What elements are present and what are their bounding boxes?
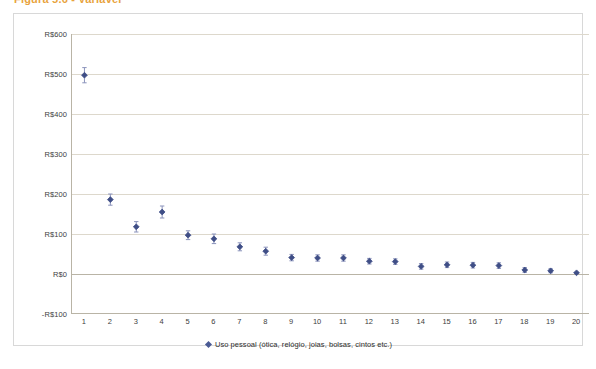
data-point-markers-group	[82, 72, 580, 275]
y-tick-label--100: -R$100	[42, 310, 67, 319]
y-tick-label-400: R$400	[44, 110, 67, 119]
x-tick-label-10: 10	[313, 317, 321, 326]
y-tick-label-600: R$600	[44, 30, 67, 39]
y-tick-label-500: R$500	[44, 70, 67, 79]
x-tick-label-4: 4	[160, 317, 164, 326]
data-point-marker[interactable]	[444, 262, 450, 268]
data-point-marker[interactable]	[82, 72, 88, 78]
x-tick-label-11: 11	[339, 317, 347, 326]
error-bars-group	[82, 68, 579, 274]
x-tick-label-1: 1	[82, 317, 86, 326]
x-tick-label-12: 12	[365, 317, 373, 326]
plot-area	[71, 34, 589, 314]
data-point-marker[interactable]	[185, 232, 191, 238]
x-tick-label-15: 15	[442, 317, 450, 326]
x-axis-tick-labels: 1234567891011121314151617181920	[71, 317, 589, 331]
y-tick-label-100: R$100	[44, 230, 67, 239]
data-point-marker[interactable]	[366, 258, 372, 264]
chart-legend: Uso pessoal (ótica, relógio, joias, bols…	[14, 340, 584, 349]
data-point-marker[interactable]	[159, 209, 165, 215]
gridlines-group	[71, 35, 589, 315]
x-tick-label-19: 19	[546, 317, 554, 326]
data-point-marker[interactable]	[341, 255, 347, 261]
data-point-marker[interactable]	[107, 197, 113, 203]
x-tick-label-18: 18	[520, 317, 528, 326]
data-point-marker[interactable]	[211, 236, 217, 242]
x-tick-label-9: 9	[289, 317, 293, 326]
diamond-marker-icon	[205, 341, 212, 348]
x-tick-label-17: 17	[494, 317, 502, 326]
data-point-marker[interactable]	[418, 264, 424, 270]
data-point-marker[interactable]	[289, 255, 295, 261]
x-tick-label-14: 14	[416, 317, 424, 326]
data-point-marker[interactable]	[315, 255, 321, 261]
legend-label: Uso pessoal (ótica, relógio, joias, bols…	[215, 340, 392, 349]
y-axis-tick-labels: R$600R$500R$400R$300R$200R$100R$0-R$100	[27, 34, 67, 314]
x-tick-label-3: 3	[134, 317, 138, 326]
chart-frame: R$600R$500R$400R$300R$200R$100R$0-R$100 …	[13, 13, 583, 346]
x-tick-label-6: 6	[211, 317, 215, 326]
figure-title: Figura 5.6 - Variável	[14, 0, 122, 5]
data-point-marker[interactable]	[133, 224, 139, 230]
scatter-plot-svg	[71, 34, 589, 314]
y-tick-label-300: R$300	[44, 150, 67, 159]
y-tick-label-0: R$0	[53, 270, 67, 279]
x-tick-label-8: 8	[263, 317, 267, 326]
y-tick-label-200: R$200	[44, 190, 67, 199]
x-tick-label-13: 13	[391, 317, 399, 326]
x-tick-label-2: 2	[108, 317, 112, 326]
x-tick-label-5: 5	[185, 317, 189, 326]
figure-title-strip: Figura 5.6 - Variável	[0, 0, 596, 9]
data-point-marker[interactable]	[237, 244, 243, 250]
axis-lines-group	[71, 34, 589, 314]
data-point-marker[interactable]	[263, 248, 269, 254]
data-point-marker[interactable]	[392, 259, 398, 265]
x-tick-label-20: 20	[572, 317, 580, 326]
data-point-marker[interactable]	[470, 262, 476, 268]
x-tick-label-7: 7	[237, 317, 241, 326]
data-point-marker[interactable]	[496, 263, 502, 269]
x-tick-label-16: 16	[468, 317, 476, 326]
